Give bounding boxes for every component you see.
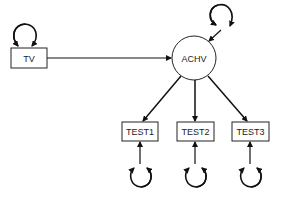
tv-variance-loop-icon — [14, 24, 36, 46]
test2-error-loop-icon — [186, 168, 206, 187]
edge-achv-test3 — [208, 76, 247, 121]
node-tv: TV — [11, 48, 47, 68]
node-test2-label: TEST2 — [181, 127, 209, 137]
node-test2: TEST2 — [177, 122, 214, 141]
node-test3: TEST3 — [232, 122, 269, 141]
test3-error-loop-icon — [241, 168, 261, 187]
node-test1: TEST1 — [122, 122, 158, 141]
path-diagram: TV ACHV TEST1 TEST2 TEST3 — [0, 0, 281, 199]
edge-achv-test1 — [143, 76, 181, 121]
node-test3-label: TEST3 — [236, 127, 264, 137]
achv-disturbance-loop-icon — [210, 5, 232, 26]
node-tv-label: TV — [23, 54, 35, 64]
node-test1-label: TEST1 — [126, 127, 154, 137]
node-achv-label: ACHV — [181, 54, 206, 64]
test1-error-loop-icon — [131, 168, 151, 187]
node-achv: ACHV — [172, 36, 216, 80]
edge-disturbance-achv — [209, 30, 221, 41]
